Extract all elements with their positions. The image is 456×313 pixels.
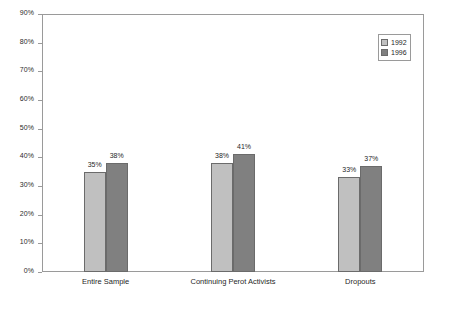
x-axis-category-label: Entire Sample [82,277,129,286]
bars-container: 35%38%38%41%33%37% [42,14,424,272]
y-axis-tick-label: 50% [20,124,34,131]
legend-label-1992: 1992 [391,39,407,47]
y-axis-tick-label: 90% [20,9,34,16]
bar-value-label: 41% [224,143,264,150]
bar: 38% [211,163,233,272]
bar-group: 33%37% [338,14,382,272]
bar: 33% [338,177,360,272]
legend-item-1996: 1996 [381,48,407,57]
y-axis-tick-label: 20% [20,210,34,217]
bar: 37% [360,166,382,272]
bar-group: 35%38% [84,14,128,272]
y-axis-tick-label: 30% [20,181,34,188]
y-axis-tick-label: 10% [20,238,34,245]
chart-legend: 1992 1996 [378,34,411,61]
bar-chart: 0%10%20%30%40%50%60%70%80%90% 35%38%38%4… [0,0,456,313]
legend-item-1992: 1992 [381,38,407,47]
bar: 35% [84,172,106,272]
x-axis-category-label: Continuing Perot Activists [190,277,275,286]
x-axis-category-label: Dropouts [345,277,375,286]
bar: 38% [106,163,128,272]
bar-group: 38%41% [211,14,255,272]
y-axis-tick-label: 80% [20,38,34,45]
bar-value-label: 37% [351,155,391,162]
y-axis-tick-label: 70% [20,66,34,73]
legend-swatch-icon-1996 [381,49,388,56]
bar: 41% [233,154,255,272]
legend-swatch-icon-1992 [381,39,388,46]
y-axis-tick-label: 60% [20,95,34,102]
bar-value-label: 38% [97,152,137,159]
y-axis-tick-label: 0% [24,267,34,274]
y-axis-tick-label: 40% [20,152,34,159]
x-axis-labels: Entire SampleContinuing Perot ActivistsD… [42,277,424,297]
y-axis-tick-mark [38,272,42,273]
legend-label-1996: 1996 [391,49,407,57]
